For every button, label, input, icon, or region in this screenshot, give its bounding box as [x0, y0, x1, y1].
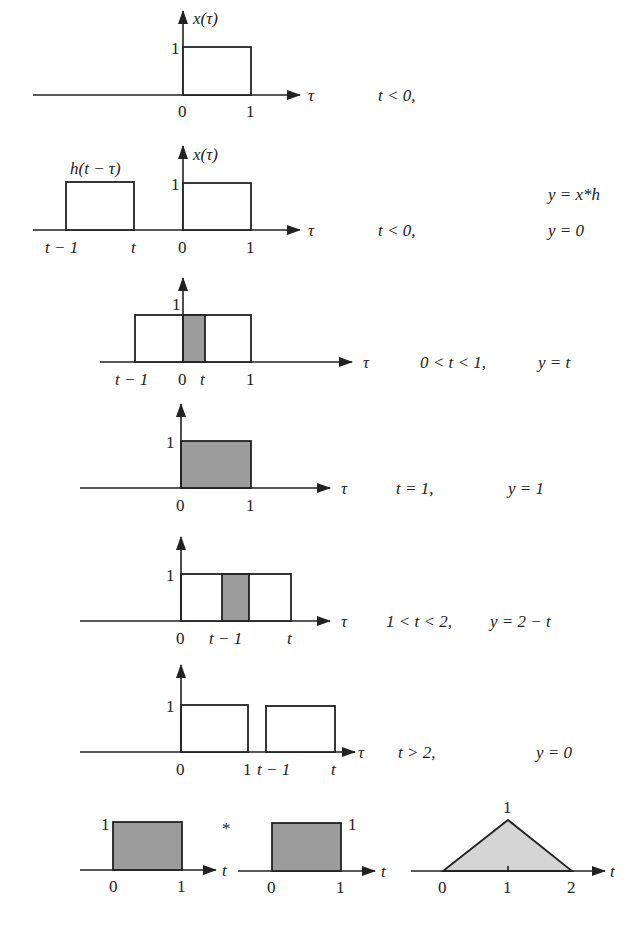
triangle-output [443, 820, 572, 871]
tick-0: 0 [178, 238, 187, 257]
axis-var: t [610, 862, 616, 881]
axis-var: τ [308, 221, 315, 240]
h-t-minus-tau-pulse [266, 706, 335, 752]
h-t-minus-tau-pulse [66, 182, 134, 230]
tick-0: 0 [176, 760, 185, 779]
summary-row: 1 0 1 t * 1 0 1 t 1 0 1 2 t [80, 798, 616, 897]
tick-1: 1 [246, 102, 255, 121]
tick-t: t [131, 238, 137, 257]
axis-var: τ [358, 743, 365, 762]
axis-var: τ [341, 612, 348, 631]
condition: t < 0, [378, 86, 415, 105]
tick-0: 0 [178, 102, 187, 121]
tick-0: 0 [267, 878, 276, 897]
left-pulse-plot: 1 0 1 t [80, 815, 228, 896]
axis-var: τ [308, 86, 315, 105]
tick-t: t [331, 760, 337, 779]
panel-3: 1 t − 1 0 t 1 τ 0 < t < 1, y = t [100, 278, 572, 389]
overlap-region [222, 574, 249, 621]
x-tau-pulse [181, 705, 248, 752]
convolution-figure: x(τ) 1 0 1 τ t < 0, h(t − τ) x(τ) 1 t − … [0, 0, 637, 926]
height-label: 1 [166, 433, 175, 452]
result-header: y = x*h [546, 185, 600, 204]
result: y = 0 [534, 743, 573, 762]
right-pulse [272, 823, 341, 871]
tick-t-minus-1: t − 1 [209, 629, 242, 648]
tick-0: 0 [438, 878, 447, 897]
tick-1: 1 [246, 370, 255, 389]
kernel-label: h(t − τ) [70, 159, 121, 178]
height-label: 1 [101, 815, 110, 834]
convolution-operator: * [222, 819, 231, 838]
height-label: 1 [172, 295, 181, 314]
height-label: 1 [166, 697, 175, 716]
tick-1: 1 [503, 878, 512, 897]
panel-5: 1 0 t − 1 t τ 1 < t < 2, y = 2 − t [80, 537, 552, 648]
condition: t = 1, [396, 479, 433, 498]
condition: 1 < t < 2, [386, 612, 452, 631]
height-label: 1 [348, 815, 357, 834]
signal-label: x(τ) [192, 9, 218, 28]
tick-1: 1 [336, 878, 345, 897]
tick-t-minus-1: t − 1 [115, 370, 148, 389]
tick-1: 1 [246, 496, 255, 515]
panel-1: x(τ) 1 0 1 τ t < 0, [33, 9, 415, 121]
tick-t-minus-1: t − 1 [257, 760, 290, 779]
tick-0: 0 [176, 496, 185, 515]
signal-label: x(τ) [192, 145, 218, 164]
tick-t: t [200, 370, 206, 389]
axis-var: t [381, 862, 387, 881]
triangle-result-plot: 1 0 1 2 t [411, 798, 616, 897]
axis-var: t [222, 861, 228, 880]
panel-2: h(t − τ) x(τ) 1 t − 1 t 0 1 τ t < 0, y =… [33, 145, 600, 257]
height-label: 1 [166, 566, 175, 585]
tick-1: 1 [243, 760, 252, 779]
tick-1: 1 [246, 238, 255, 257]
condition: t < 0, [378, 221, 415, 240]
tick-t: t [287, 629, 293, 648]
tick-1: 1 [177, 877, 186, 896]
result: y = 2 − t [488, 612, 552, 631]
result: y = 1 [506, 479, 544, 498]
height-label: 1 [171, 175, 180, 194]
tick-0: 0 [109, 877, 118, 896]
tick-2: 2 [567, 878, 576, 897]
axis-var: τ [341, 479, 348, 498]
axis-var: τ [363, 353, 370, 372]
result: y = 0 [546, 221, 585, 240]
peak-label: 1 [503, 798, 512, 817]
overlap-region [183, 315, 205, 362]
condition: 0 < t < 1, [420, 353, 486, 372]
tick-t-minus-1: t − 1 [45, 238, 78, 257]
x-tau-pulse [183, 183, 251, 230]
result: y = t [536, 353, 572, 372]
panel-6: 1 0 1 t − 1 t τ t > 2, y = 0 [80, 665, 573, 779]
condition: t > 2, [398, 743, 435, 762]
left-pulse [113, 822, 182, 870]
x-tau-pulse [183, 47, 251, 95]
panel-4: 1 0 1 τ t = 1, y = 1 [80, 404, 544, 515]
tick-0: 0 [178, 370, 187, 389]
tick-0: 0 [176, 629, 185, 648]
right-pulse-plot: 1 0 1 t [238, 815, 387, 897]
height-label: 1 [171, 39, 180, 58]
overlap-region [181, 441, 251, 488]
